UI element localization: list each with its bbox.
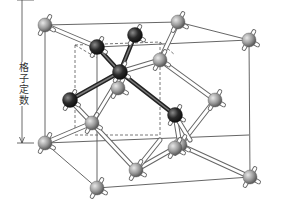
gray-atom	[90, 179, 106, 196]
gray-atom	[153, 51, 169, 68]
gray-atom	[38, 16, 54, 33]
gray-atom	[171, 13, 187, 30]
lattice-constant-label: 格子定数	[14, 62, 28, 106]
cube-edge	[97, 40, 249, 47]
dark-atom	[128, 26, 144, 43]
gray-atom	[242, 31, 258, 48]
white-bond	[92, 123, 136, 170]
cube-edge	[97, 177, 250, 188]
gray-atom	[38, 134, 54, 151]
white-bond	[45, 123, 92, 143]
cube-edge	[249, 40, 250, 177]
cube-edge	[45, 135, 249, 143]
cube-edge	[45, 22, 178, 25]
diamond-lattice-diagram	[0, 0, 284, 215]
gray-atom	[243, 168, 259, 185]
cube-edge	[178, 22, 249, 40]
dark-atom	[90, 38, 106, 55]
